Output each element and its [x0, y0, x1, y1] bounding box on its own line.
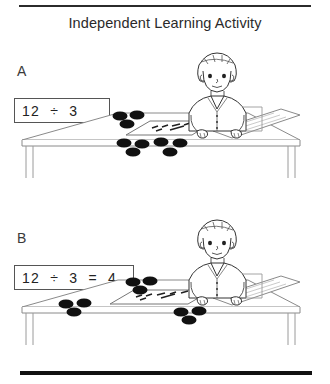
bottom-rule — [20, 371, 312, 375]
scene-panel-b — [0, 212, 330, 347]
figure-page: Independent Learning Activity A B 12 ÷ 3… — [0, 0, 330, 384]
page-title: Independent Learning Activity — [0, 15, 330, 31]
top-rule — [19, 5, 311, 7]
scene-panel-a — [0, 45, 330, 180]
